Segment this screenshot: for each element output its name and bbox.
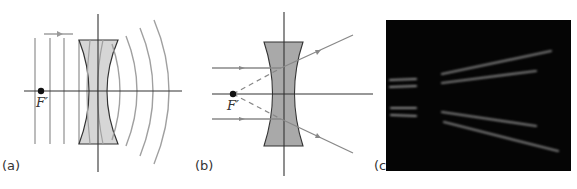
focal-point-label: F′ bbox=[227, 98, 239, 113]
spherical-wavefronts bbox=[112, 20, 169, 164]
wavefront-diagram bbox=[0, 0, 195, 189]
panel-label-b: (b) bbox=[195, 158, 213, 173]
beam-photograph bbox=[386, 20, 571, 171]
panel-a-wavefronts: F′ (a) bbox=[0, 0, 195, 189]
focal-point-label: F′ bbox=[36, 95, 48, 110]
ray-diagram bbox=[195, 0, 380, 189]
focal-point-dot bbox=[230, 91, 236, 97]
direction-arrow-icon bbox=[44, 31, 73, 37]
diverging-beams bbox=[442, 51, 558, 151]
light-beams bbox=[386, 20, 571, 171]
incoming-beams bbox=[390, 79, 416, 116]
focal-point-dot bbox=[38, 88, 44, 94]
panel-label-a: (a) bbox=[2, 158, 20, 173]
panel-c-photo: (c) bbox=[380, 0, 577, 189]
panel-b-rays: F′ (b) bbox=[195, 0, 380, 189]
